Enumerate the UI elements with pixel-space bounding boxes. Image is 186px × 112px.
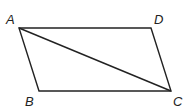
- vertex-label-c: C: [173, 94, 183, 109]
- parallelogram-diagram: A D B C: [0, 0, 186, 112]
- vertex-label-a: A: [5, 12, 15, 27]
- vertex-label-b: B: [25, 94, 34, 109]
- vertex-label-d: D: [154, 12, 163, 27]
- diagonal-ac: [19, 28, 171, 91]
